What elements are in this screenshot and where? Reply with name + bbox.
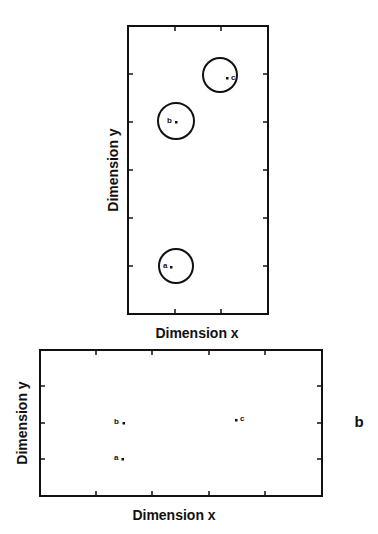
bottom-x-axis-label: Dimension x [132, 507, 215, 523]
bottom-x-ticks [96, 350, 265, 496]
top-plot-frame [128, 26, 268, 314]
top-point-label-b: b [167, 116, 172, 125]
bottom-point-c [235, 419, 238, 422]
panel-label-b: b [354, 413, 363, 430]
top-y-axis-label: Dimension y [105, 128, 121, 211]
bottom-plot-frame [40, 350, 322, 496]
top-panel: c b a Dimension y Dimension x [105, 26, 268, 341]
top-point-label-a: a [163, 261, 168, 270]
figure: c b a Dimension y Dimension x [0, 0, 378, 534]
top-y-ticks [128, 74, 268, 266]
bottom-panel: b a c Dimension y Dimension x b [14, 350, 364, 523]
bottom-point-label-c: c [240, 414, 245, 423]
top-point-a [170, 266, 173, 269]
bottom-point-label-a: a [114, 453, 119, 462]
bottom-point-b [123, 422, 126, 425]
top-x-axis-label: Dimension x [155, 325, 238, 341]
top-point-label-c: c [231, 73, 236, 82]
bottom-point-label-b: b [114, 417, 119, 426]
top-point-c [226, 77, 229, 80]
bottom-point-a [122, 458, 125, 461]
top-x-ticks [175, 26, 221, 314]
bottom-y-axis-label: Dimension y [14, 381, 30, 464]
top-point-b [175, 121, 178, 124]
bottom-y-ticks [40, 386, 322, 459]
